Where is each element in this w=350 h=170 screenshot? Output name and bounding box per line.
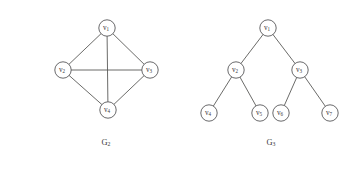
figure-root: v1v2v3v4v1v2v3v4v5v6v7 G2G3 <box>0 0 350 170</box>
graph-node-v1: v1 <box>99 20 115 36</box>
graph-edge-v2-v4 <box>213 77 231 106</box>
graph-edge-v1-v2 <box>69 34 101 65</box>
edges-layer <box>69 34 325 107</box>
nodes-layer: v1v2v3v4v1v2v3v4v5v6v7 <box>55 20 338 121</box>
captions-layer: G2G3 <box>102 138 276 148</box>
graph-edge-v2-v5 <box>240 77 256 106</box>
graph-caption-2: G3 <box>267 138 276 148</box>
graph-edge-v2-v4 <box>69 75 102 104</box>
graph-caption-1: G2 <box>102 138 111 148</box>
graph-node-v5: v5 <box>252 105 268 121</box>
graph-edge-v1-v3 <box>273 35 295 64</box>
graph-edge-v3-v4 <box>114 76 144 105</box>
graph-edge-v1-v4 <box>107 36 108 102</box>
graph-node-v6: v6 <box>273 105 289 121</box>
graph-node-v4: v4 <box>201 105 217 121</box>
graph-edge-v3-v7 <box>305 77 326 107</box>
graph-node-v3: v3 <box>292 62 308 78</box>
graph-node-v4: v4 <box>100 102 116 118</box>
graph-edge-v1-v3 <box>113 34 144 65</box>
graph-edge-v3-v6 <box>284 78 296 106</box>
graph-diagram-canvas: v1v2v3v4v1v2v3v4v5v6v7 G2G3 <box>0 0 350 170</box>
graph-node-v3: v3 <box>142 62 158 78</box>
graph-node-v2: v2 <box>55 62 71 78</box>
graph-node-v7: v7 <box>322 105 338 121</box>
graph-edge-v1-v2 <box>241 35 263 64</box>
graph-node-v1: v1 <box>260 20 276 36</box>
graph-node-v2: v2 <box>228 62 244 78</box>
